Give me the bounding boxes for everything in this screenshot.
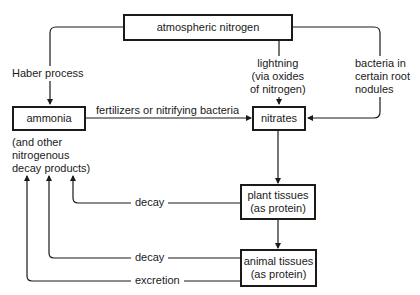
ammonia-note: (and other nitrogenous decay products) [12,136,90,175]
node-animal-tissues: animal tissues (as protein) [240,249,317,287]
label-haber-process: Haber process [12,66,84,81]
node-ammonia: ammonia [12,106,86,131]
node-plant-tissues: plant tissues (as protein) [240,184,316,220]
label-plant-decay: decay [131,196,168,209]
label-lightning: lightning (via oxides of nitrogen) [250,56,306,97]
label-bacteria-root-nodules: bacteria in certain root nodules [355,56,410,97]
label-animal-decay: decay [131,251,168,264]
node-atmospheric-nitrogen: atmospheric nitrogen [123,14,293,41]
edge-animal-decay [49,176,240,258]
label-fertilizers: fertilizers or nitrifying bacteria [96,104,239,117]
label-excretion: excretion [131,274,184,287]
node-nitrates: nitrates [252,106,306,131]
edge-excretion [27,176,240,281]
